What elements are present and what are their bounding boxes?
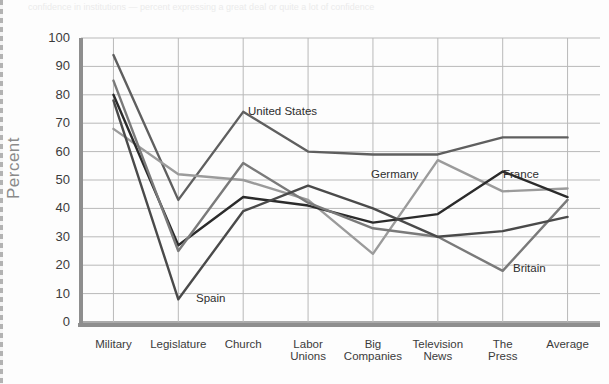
y-tick-label: 60 — [36, 144, 70, 159]
y-tick-label: 40 — [36, 200, 70, 215]
x-tick-label: ThePress — [466, 338, 540, 362]
plot-area — [0, 0, 609, 384]
y-tick-label: 20 — [36, 257, 70, 272]
series-label-germany: Germany — [371, 168, 418, 180]
series-line-united-states — [113, 55, 567, 200]
y-tick-label: 10 — [36, 286, 70, 301]
series-label-france: France — [503, 168, 539, 180]
x-tick-label: LaborUnions — [271, 338, 345, 362]
y-tick-label: 80 — [36, 87, 70, 102]
y-tick-label: 100 — [36, 30, 70, 45]
line-chart-svg — [0, 0, 609, 384]
y-axis-label: Percent — [4, 137, 24, 199]
series-line-france — [113, 95, 567, 246]
series-line-germany — [113, 129, 567, 254]
x-tick-label: Church — [206, 338, 280, 350]
y-tick-label: 90 — [36, 58, 70, 73]
y-tick-label: 0 — [36, 314, 70, 329]
x-tick-label: Average — [531, 338, 605, 350]
x-tick-label: Military — [76, 338, 150, 350]
y-tick-label: 70 — [36, 115, 70, 130]
x-tick-label: Legislature — [141, 338, 215, 350]
x-tick-label: TelevisionNews — [401, 338, 475, 362]
series-label-britain: Britain — [513, 262, 546, 274]
y-tick-label: 30 — [36, 229, 70, 244]
chart-container: confidence in institutions — percent exp… — [0, 0, 609, 384]
series-label-spain: Spain — [196, 292, 225, 304]
y-tick-label: 50 — [36, 172, 70, 187]
x-tick-label: BigCompanies — [336, 338, 410, 362]
series-label-united-states: United States — [248, 105, 317, 117]
